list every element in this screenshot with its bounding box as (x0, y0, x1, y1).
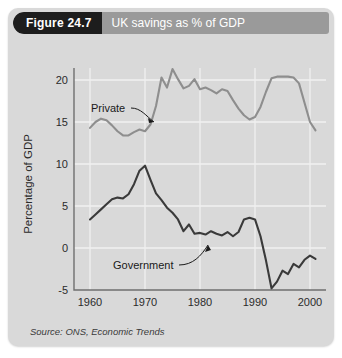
xtick-1990: 1990 (243, 296, 267, 308)
ytick-10: 10 (56, 158, 68, 170)
chart-plot-area: 20 15 10 5 0 -5 1960 1970 1980 1990 2000… (8, 34, 334, 346)
source-note: Source: ONS, Economic Trends (30, 326, 164, 337)
ytick-20: 20 (56, 74, 68, 86)
x-axis-tick-labels: 1960 1970 1980 1990 2000 (78, 296, 322, 308)
figure-title-band: Figure 24.7 UK savings as % of GDP (13, 12, 329, 34)
annotation-government: Government (113, 245, 211, 271)
chart-svg: 20 15 10 5 0 -5 1960 1970 1980 1990 2000… (8, 34, 334, 346)
xtick-1970: 1970 (133, 296, 157, 308)
ytick--5: -5 (58, 284, 68, 296)
xtick-2000: 2000 (298, 296, 322, 308)
xtick-1960: 1960 (78, 296, 102, 308)
figure-panel: Figure 24.7 UK savings as % of GDP 20 (8, 8, 334, 346)
y-axis-title: Percentage of GDP (22, 134, 34, 234)
ytick-15: 15 (56, 116, 68, 128)
figure-title-text: UK savings as % of GDP (102, 16, 245, 30)
y-axis-tick-labels: 20 15 10 5 0 -5 (56, 74, 68, 296)
ytick-5: 5 (62, 200, 68, 212)
private-label: Private (91, 102, 125, 114)
figure-number-tag: Figure 24.7 (13, 12, 102, 34)
ytick-0: 0 (62, 242, 68, 254)
xtick-1980: 1980 (188, 296, 212, 308)
government-label: Government (113, 259, 174, 271)
